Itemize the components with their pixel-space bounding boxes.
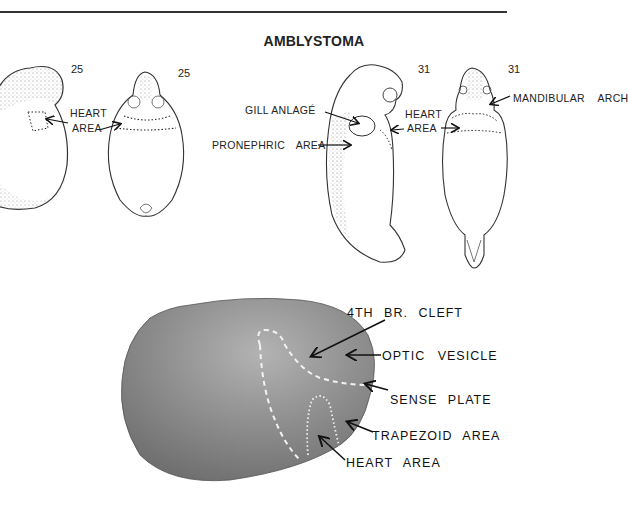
embryo-stage31-lateral — [326, 65, 405, 263]
label-heart-area: HEART AREA — [346, 456, 441, 470]
label-s25-heart: HEART — [70, 107, 107, 119]
label-sense-plate: SENSE PLATE — [390, 393, 492, 407]
label-s31-heart: HEART — [405, 108, 442, 120]
label-gill-anlage: GILL ANLAGÉ — [245, 104, 316, 116]
label-trapezoid-area: TRAPEZOID AREA — [372, 429, 500, 443]
label-optic-vesicle: OPTIC VESICLE — [382, 349, 497, 363]
arrow-s31-heart — [392, 129, 404, 130]
label-pronephric-area: PRONEPHRIC AREA — [212, 139, 325, 151]
stage-number: 25 — [178, 67, 190, 79]
embryo-stage25-ventral — [108, 72, 183, 216]
stage-number: 31 — [508, 63, 520, 75]
label-br-cleft: 4TH BR. CLEFT — [347, 306, 463, 320]
embryo-stage25-lateral — [0, 67, 68, 210]
label-mandibular-arch: MANDIBULAR ARCH — [513, 92, 628, 104]
figure-drawings — [0, 0, 628, 505]
embryo-stage31-ventral — [443, 68, 508, 268]
stage-number: 31 — [418, 63, 430, 75]
stage-number: 25 — [71, 63, 83, 75]
label-s25-area: AREA — [72, 122, 102, 134]
label-s31-area: AREA — [407, 122, 437, 134]
embryo-photograph — [121, 298, 374, 480]
